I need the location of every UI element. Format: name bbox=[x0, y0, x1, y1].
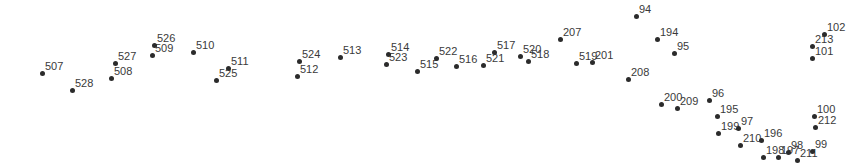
point-marker-icon bbox=[384, 62, 389, 67]
point-label: 527 bbox=[118, 51, 136, 62]
point-marker-icon bbox=[716, 131, 721, 136]
point-marker-icon bbox=[590, 60, 595, 65]
point-label: 201 bbox=[595, 50, 613, 61]
point-label: 513 bbox=[343, 45, 361, 56]
point-label: 212 bbox=[818, 115, 836, 126]
point-marker-icon bbox=[492, 50, 497, 55]
point-label: 523 bbox=[389, 52, 407, 63]
point-label: 510 bbox=[196, 40, 214, 51]
point-marker-icon bbox=[675, 106, 680, 111]
point-marker-icon bbox=[214, 78, 219, 83]
point-marker-icon bbox=[338, 55, 343, 60]
point-label: 208 bbox=[631, 67, 649, 78]
point-label: 507 bbox=[45, 61, 63, 72]
point-marker-icon bbox=[634, 14, 639, 19]
point-marker-icon bbox=[297, 59, 302, 64]
point-label: 528 bbox=[75, 78, 93, 89]
point-marker-icon bbox=[786, 150, 791, 155]
point-marker-icon bbox=[226, 66, 231, 71]
point-label: 209 bbox=[680, 96, 698, 107]
point-marker-icon bbox=[810, 44, 815, 49]
point-marker-icon bbox=[761, 155, 766, 160]
point-marker-icon bbox=[152, 43, 157, 48]
point-marker-icon bbox=[776, 155, 781, 160]
point-label: 194 bbox=[660, 27, 678, 38]
point-marker-icon bbox=[812, 114, 817, 119]
point-marker-icon bbox=[738, 143, 743, 148]
point-marker-icon bbox=[109, 76, 114, 81]
point-marker-icon bbox=[295, 74, 300, 79]
point-marker-icon bbox=[759, 138, 764, 143]
point-label: 522 bbox=[439, 46, 457, 57]
point-marker-icon bbox=[810, 149, 815, 154]
point-label: 94 bbox=[639, 4, 651, 15]
point-label: 99 bbox=[815, 139, 827, 150]
point-label: 207 bbox=[563, 27, 581, 38]
point-marker-icon bbox=[736, 126, 741, 131]
point-label: 511 bbox=[231, 56, 249, 67]
point-marker-icon bbox=[655, 37, 660, 42]
point-marker-icon bbox=[707, 98, 712, 103]
point-marker-icon bbox=[481, 63, 486, 68]
point-marker-icon bbox=[526, 59, 531, 64]
point-label: 517 bbox=[497, 40, 515, 51]
point-label: 97 bbox=[741, 116, 753, 127]
point-label: 521 bbox=[486, 53, 504, 64]
point-marker-icon bbox=[40, 71, 45, 76]
point-marker-icon bbox=[574, 61, 579, 66]
point-marker-icon bbox=[715, 114, 720, 119]
point-marker-icon bbox=[672, 51, 677, 56]
point-label: 512 bbox=[300, 64, 318, 75]
point-marker-icon bbox=[659, 102, 664, 107]
point-label: 196 bbox=[764, 128, 782, 139]
point-label: 96 bbox=[712, 88, 724, 99]
point-label: 514 bbox=[391, 42, 409, 53]
point-marker-icon bbox=[810, 56, 815, 61]
point-marker-icon bbox=[386, 52, 391, 57]
scatter-plot-canvas: 5075285085275095265105255115125245135235… bbox=[0, 0, 860, 168]
point-marker-icon bbox=[415, 69, 420, 74]
point-label: 95 bbox=[677, 41, 689, 52]
point-marker-icon bbox=[558, 37, 563, 42]
point-label: 195 bbox=[720, 104, 738, 115]
point-marker-icon bbox=[626, 77, 631, 82]
point-marker-icon bbox=[150, 53, 155, 58]
point-label: 516 bbox=[459, 54, 477, 65]
point-label: 102 bbox=[827, 22, 845, 33]
point-label: 526 bbox=[157, 33, 175, 44]
point-marker-icon bbox=[191, 50, 196, 55]
point-label: 509 bbox=[155, 43, 173, 54]
point-label: 515 bbox=[420, 59, 438, 70]
point-label: 508 bbox=[114, 66, 132, 77]
point-label: 524 bbox=[302, 49, 320, 60]
point-marker-icon bbox=[70, 88, 75, 93]
point-marker-icon bbox=[518, 54, 523, 59]
point-marker-icon bbox=[795, 158, 800, 163]
point-marker-icon bbox=[454, 64, 459, 69]
point-marker-icon bbox=[822, 32, 827, 37]
point-marker-icon bbox=[113, 61, 118, 66]
point-label: 518 bbox=[531, 49, 549, 60]
point-marker-icon bbox=[434, 56, 439, 61]
point-marker-icon bbox=[813, 125, 818, 130]
point-label: 101 bbox=[815, 46, 833, 57]
